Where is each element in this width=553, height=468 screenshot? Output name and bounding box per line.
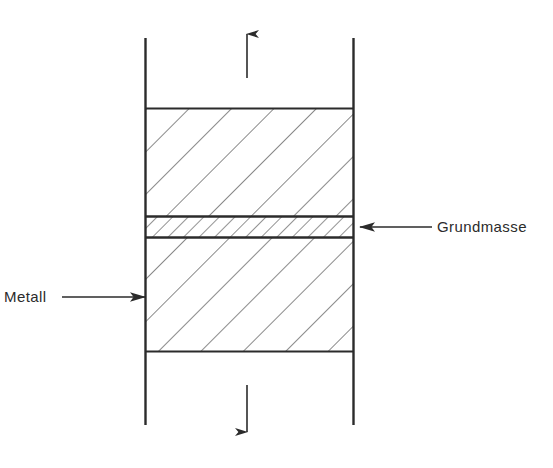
metall-label: Metall	[4, 289, 46, 304]
lower-metal-block	[145, 238, 354, 352]
diagram-canvas: Grundmasse Metall	[0, 0, 553, 468]
upper-metal-block	[145, 108, 354, 216]
grundmasse-label: Grundmasse	[437, 219, 527, 234]
grundmasse-band	[145, 216, 354, 238]
